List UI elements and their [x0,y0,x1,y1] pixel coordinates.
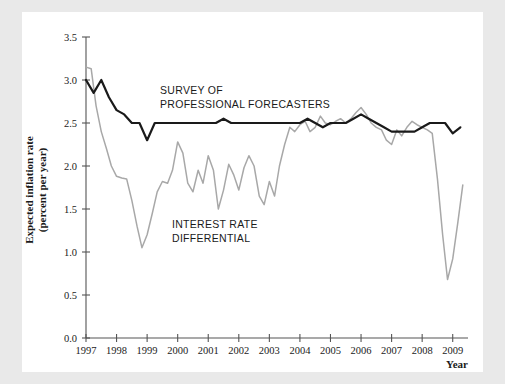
x-tick-label: 2001 [198,345,219,356]
y-tick-label: 2.0 [64,161,77,172]
series-line-survey-of-professional-forecasters [86,80,460,140]
y-tick-label: 3.0 [64,75,77,86]
y-tick-label: 2.5 [64,118,77,129]
y-tick-label: 1.0 [64,247,77,258]
x-tick-label: 1998 [106,345,127,356]
series-label-spf-line2: PROFESSIONAL FORECASTERS [160,98,330,110]
x-tick-label: 2006 [351,345,372,356]
x-tick-label: 2002 [228,345,249,356]
x-axis-title: Year [446,358,468,370]
x-axis-ticks: 1997199819992000200120022003200420052006… [76,334,464,356]
y-tick-label: 0.0 [64,333,77,344]
y-tick-label: 3.5 [64,32,77,43]
x-tick-label: 2005 [320,345,341,356]
x-tick-label: 2000 [167,345,188,356]
y-tick-label: 0.5 [64,290,77,301]
x-tick-label: 2007 [381,345,402,356]
series-label-spf-line1: SURVEY OF [160,84,223,96]
x-tick-label: 2009 [442,345,463,356]
y-axis-title-line2: (percent per year) [36,147,49,232]
x-tick-label: 2008 [412,345,433,356]
chart-canvas: 0.00.51.01.52.02.53.03.5 199719981999200… [0,0,505,384]
x-tick-label: 2003 [259,345,280,356]
y-axis-title-line1: Expected inflation rate [23,136,35,244]
series-label-ird-line2: DIFFERENTIAL [172,232,250,244]
y-tick-label: 1.5 [64,204,77,215]
x-tick-label: 1999 [137,345,158,356]
series-label-ird-line1: INTEREST RATE [172,218,258,230]
x-tick-label: 2004 [289,345,311,356]
x-tick-label: 1997 [76,345,97,356]
